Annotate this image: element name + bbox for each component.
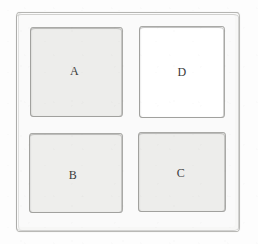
quadrant-cell-d[interactable]: D [139, 26, 225, 118]
cell-label-a: A [70, 65, 79, 77]
quadrant-cell-b[interactable]: B [29, 133, 123, 213]
quadrant-cell-a[interactable]: A [30, 27, 123, 117]
cell-label-c: C [177, 167, 185, 179]
cell-label-d: D [178, 66, 187, 78]
quadrant-cell-c[interactable]: C [138, 132, 226, 212]
diagram-canvas: A D B C [0, 0, 258, 244]
cell-label-b: B [69, 169, 77, 181]
